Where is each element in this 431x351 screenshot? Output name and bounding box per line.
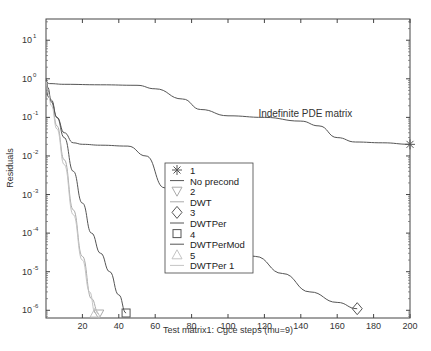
- legend-marker-label: 1: [190, 165, 195, 176]
- legend-line-label: DWTPer: [190, 218, 226, 229]
- y-tick-label: 10: [22, 190, 32, 200]
- star-marker-icon: [172, 165, 182, 175]
- y-tick-exponent: -6: [33, 303, 39, 309]
- series-line-no-precond: [46, 83, 410, 145]
- legend-line-label: DWTPer 1: [190, 260, 234, 271]
- y-tick-exponent: 1: [33, 33, 37, 39]
- y-tick-label: 10: [22, 35, 32, 45]
- y-tick-exponent: -2: [33, 149, 39, 155]
- x-tick-label: 40: [114, 321, 124, 331]
- y-tick-label: 10: [22, 267, 32, 277]
- legend-marker-label: 5: [190, 250, 195, 261]
- legend-line-label: DWT: [190, 197, 212, 208]
- x-axis-label: Test matrix1: Cgce steps (mu=9): [163, 325, 293, 335]
- legend-marker-label: 2: [190, 186, 195, 197]
- legend-marker-label: 4: [190, 229, 195, 240]
- y-tick-label: 10: [22, 74, 32, 84]
- y-tick-label: 10: [22, 228, 32, 238]
- residuals-chart: 20406080100120140160180200 10110010-110-…: [0, 0, 431, 351]
- y-tick-label: 10: [22, 112, 32, 122]
- y-tick-label: 10: [22, 151, 32, 161]
- x-tick-label: 20: [77, 321, 87, 331]
- legend-marker-label: 3: [190, 207, 195, 218]
- y-axis-label: Residuals: [5, 148, 15, 188]
- legend: 1No precond2DWT3DWTPer4DWTPerMod5DWTPer …: [165, 163, 253, 273]
- chart-annotation: Indefinite PDE matrix: [258, 108, 352, 119]
- star-marker-icon: [405, 139, 415, 149]
- y-tick-exponent: -5: [33, 265, 39, 271]
- x-tick-label: 160: [330, 321, 345, 331]
- x-tick-label: 200: [402, 321, 417, 331]
- y-tick-exponent: -1: [33, 110, 39, 116]
- x-tick-label: 180: [366, 321, 381, 331]
- y-tick-exponent: 0: [33, 72, 37, 78]
- x-tick-label: 140: [293, 321, 308, 331]
- y-tick-exponent: -3: [33, 188, 39, 194]
- y-tick-label: 10: [22, 305, 32, 315]
- x-tick-label: 60: [150, 321, 160, 331]
- y-tick-exponent: -4: [33, 226, 39, 232]
- legend-line-label: No precond: [190, 176, 239, 187]
- legend-line-label: DWTPerMod: [190, 239, 245, 250]
